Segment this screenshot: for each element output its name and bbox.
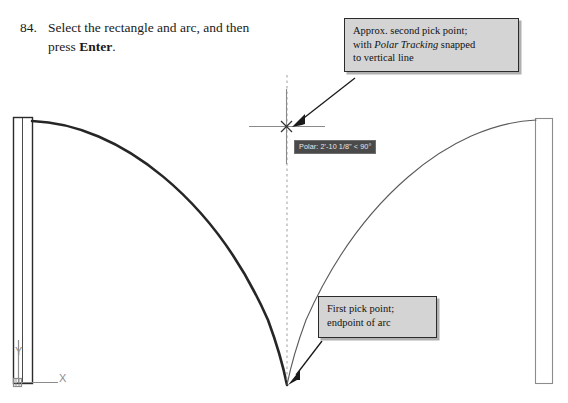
callout-second-line3: to vertical line	[353, 51, 511, 65]
right-arc-mirrored	[287, 120, 536, 385]
callout-first-line2: endpoint of arc	[327, 316, 429, 330]
callout-second-polar-tracking-term: Polar Tracking	[374, 39, 438, 50]
right-vertical-rectangle	[536, 119, 553, 384]
polar-tracking-tooltip: Polar: 2'-10 1/8" < 90°	[294, 140, 376, 154]
callout-second-line2: with Polar Tracking snapped	[353, 38, 511, 52]
leader-arrow-second-pick	[292, 78, 355, 127]
left-vertical-rectangle	[14, 118, 33, 384]
leader-arrow-first-pick	[288, 341, 322, 385]
ucs-x-axis-label: X	[59, 372, 66, 384]
callout-second-line1: Approx. second pick point;	[353, 24, 511, 38]
callout-first-line1: First pick point;	[327, 302, 429, 316]
figure-page: 84. Select the rectangle and arc, and th…	[0, 0, 568, 403]
callout-first-pick-point: First pick point; endpoint of arc	[318, 296, 437, 338]
ucs-y-axis-label: Y	[15, 345, 22, 357]
callout-second-line2-before: with	[353, 39, 374, 50]
callout-second-pick-point: Approx. second pick point; with Polar Tr…	[344, 18, 519, 72]
callout-second-line2-after: snapped	[438, 39, 475, 50]
left-arc-selected	[32, 121, 287, 385]
